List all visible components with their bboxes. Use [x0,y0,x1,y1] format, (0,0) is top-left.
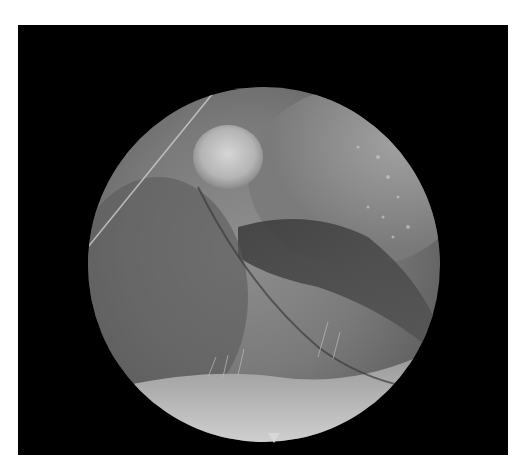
image-frame [18,25,508,455]
orientation-notch-marker [268,433,280,443]
endoscope-view [88,87,440,442]
tissue-illustration [88,87,440,442]
